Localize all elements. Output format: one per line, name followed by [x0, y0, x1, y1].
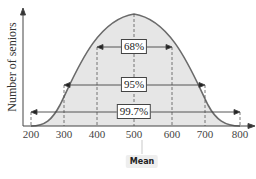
x-tick-600: 600: [164, 128, 181, 140]
x-tick-300: 300: [56, 128, 73, 140]
x-tick-800: 800: [232, 128, 249, 140]
mean-label: Mean: [126, 155, 158, 168]
pct-68-label: 68%: [121, 39, 147, 54]
x-tick-700: 700: [197, 128, 214, 140]
pct-997-label: 99.7%: [117, 104, 151, 119]
x-tick-500: 500: [126, 128, 143, 140]
x-tick-400: 400: [89, 128, 106, 140]
x-tick-200: 200: [23, 128, 40, 140]
y-axis-label: Number of seniors: [5, 17, 19, 117]
pct-95-label: 95%: [121, 77, 147, 92]
